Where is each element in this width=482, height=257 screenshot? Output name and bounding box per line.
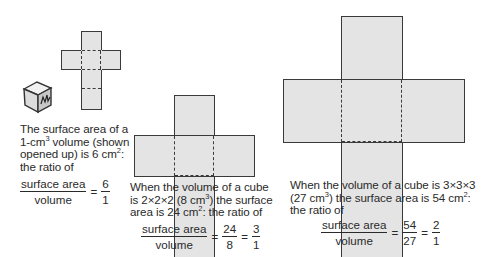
fold-line [401, 80, 402, 142]
fraction-result: 6 1 [101, 177, 109, 206]
fold-line [82, 88, 101, 89]
denominator: volume [336, 233, 373, 247]
net-face-center [342, 80, 402, 142]
denominator: 27 [403, 233, 416, 247]
caption-2cm: When the volume of a cube is 2×2×2 (8 cm… [130, 181, 280, 219]
caption-line: the ratio of [290, 204, 482, 217]
fraction-values: 24 8 [222, 222, 237, 251]
caption-text: area is 24 cm [130, 205, 198, 218]
numerator: 24 [222, 222, 237, 237]
fold-line [82, 69, 101, 70]
caption-text: 1-cm [20, 135, 45, 148]
caption-text: (27 cm [290, 191, 325, 204]
fold-line [341, 80, 342, 142]
caption-3cm: When the volume of a cube is 3×3×3 (27 c… [290, 179, 482, 217]
fold-line [213, 136, 214, 176]
fraction-values: 54 27 [402, 218, 417, 247]
equals-sign: = [421, 226, 428, 239]
denominator: 8 [226, 237, 232, 251]
caption-line: area is 24 cm2: the ratio of [130, 206, 280, 219]
caption-text: : [121, 147, 124, 160]
fold-line [342, 79, 402, 80]
denominator: 1 [102, 192, 108, 206]
equals-sign: = [90, 185, 97, 198]
equals-sign: = [211, 230, 218, 243]
numerator: 3 [252, 222, 260, 237]
fold-line [175, 135, 214, 136]
ratio-equation-2cm: surface area volume = 24 8 = 3 1 [141, 222, 260, 251]
fold-line [81, 51, 82, 69]
denominator: volume [156, 237, 193, 251]
caption-text: ) the surface area is 54 cm [329, 191, 464, 204]
fraction-surface-volume: surface area volume [321, 218, 387, 247]
numerator: surface area [20, 177, 86, 192]
numerator: 2 [432, 218, 440, 233]
net-face-center [81, 50, 102, 70]
numerator: 54 [402, 218, 417, 233]
fold-line [82, 50, 101, 51]
fraction-surface-volume: surface area volume [141, 222, 207, 251]
fold-line [175, 175, 214, 176]
denominator: 1 [433, 233, 439, 247]
equals-sign: = [391, 226, 398, 239]
denominator: 1 [253, 237, 259, 251]
caption-text: opened up) is 6 cm [20, 147, 117, 160]
caption-line: the ratio of [20, 161, 140, 174]
caption-text: : the ratio of [202, 205, 262, 218]
fraction-surface-volume: surface area volume [20, 177, 86, 206]
caption-1cm: The surface area of a 1-cm3 volume (show… [20, 123, 140, 173]
net-face-center [175, 136, 214, 176]
caption-text: is 2×2×2 (8 cm [130, 193, 205, 206]
denominator: volume [35, 192, 72, 206]
fold-line [174, 136, 175, 176]
fold-line [100, 51, 101, 69]
numerator: 6 [101, 177, 109, 192]
cube-icon [22, 80, 54, 114]
caption-line: opened up) is 6 cm2: [20, 148, 140, 161]
ratio-equation-3cm: surface area volume = 54 27 = 2 1 [321, 218, 440, 247]
numerator: surface area [141, 222, 207, 237]
caption-text: : [468, 191, 471, 204]
net-face-vertical-strip [81, 31, 102, 110]
ratio-equation-1cm: surface area volume = 6 1 [20, 177, 110, 206]
fraction-result: 2 1 [432, 218, 440, 247]
fold-line [342, 141, 402, 142]
caption-text: ) the surface [209, 193, 272, 206]
equals-sign: = [241, 230, 248, 243]
numerator: surface area [321, 218, 387, 233]
fraction-result: 3 1 [252, 222, 260, 251]
